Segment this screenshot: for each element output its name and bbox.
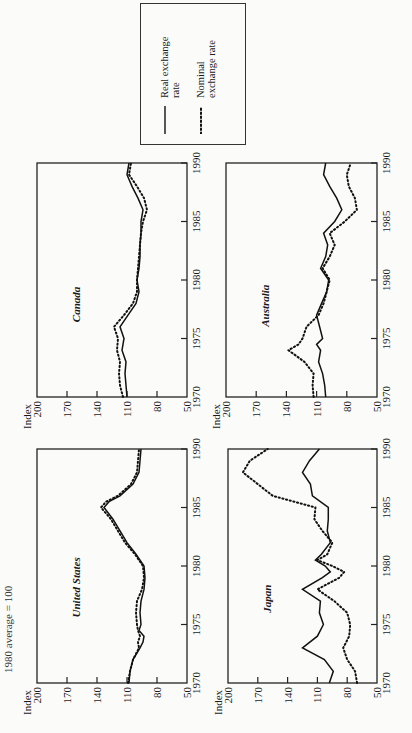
panel-canada: 2001701401108050Index1970197519801985199… (37, 163, 187, 397)
y-tick-label: 170 (251, 401, 262, 427)
x-tick-label: 1970 (381, 382, 392, 412)
y-axis-label: Index (21, 404, 33, 429)
nominal-exchange-rate-line (288, 163, 357, 397)
x-tick-label: 1980 (381, 551, 392, 581)
panel-united-states: 2001701401108050Index1970197519801985199… (37, 449, 187, 683)
x-tick-label: 1980 (191, 265, 202, 295)
x-tick-label: 1970 (381, 668, 392, 698)
x-tick-label: 1990 (381, 434, 392, 464)
x-tick-label: 1985 (191, 207, 202, 237)
panel-plot-area (226, 163, 377, 397)
nominal-exchange-rate-line (101, 449, 144, 683)
y-tick-label: 170 (62, 687, 73, 713)
x-tick-label: 1975 (381, 610, 392, 640)
x-tick-label: 1980 (381, 265, 392, 295)
x-tick-label: 1990 (191, 434, 202, 464)
rotated-figure-page: 1980 average = 100 2001701401108050Index… (0, 0, 412, 733)
y-axis-label: Index (21, 690, 33, 715)
y-axis-label: Index (212, 690, 224, 715)
panel-australia: 2001701401108050Index1970197519801985199… (226, 163, 377, 397)
panel-plot-area (37, 449, 187, 683)
y-tick-label: 110 (122, 687, 133, 713)
y-tick-label: 140 (281, 401, 292, 427)
nominal-exchange-rate-line (243, 449, 357, 683)
legend-item-nominal: Nominal exchange rate (195, 28, 217, 134)
y-tick-label: 80 (342, 401, 353, 427)
legend-item-real: Real exchange rate (159, 28, 181, 134)
nominal-exchange-rate-line (114, 163, 147, 397)
legend: Real exchange rate Nominal exchange rate (140, 3, 246, 145)
y-tick-label: 200 (223, 687, 234, 713)
x-tick-label: 1975 (191, 324, 202, 354)
x-tick-label: 1980 (191, 551, 202, 581)
panel-plot-area (37, 163, 187, 397)
y-tick-label: 140 (92, 687, 103, 713)
y-tick-label: 200 (221, 401, 232, 427)
legend-label-nominal: Nominal exchange rate (195, 28, 217, 98)
panel-title: United States (70, 557, 82, 617)
panel-title: Japan (261, 585, 273, 613)
x-tick-label: 1985 (381, 207, 392, 237)
real-exchange-rate-line (317, 163, 342, 397)
y-tick-label: 80 (152, 687, 163, 713)
x-tick-label: 1985 (381, 493, 392, 523)
x-tick-label: 1970 (191, 382, 202, 412)
x-tick-label: 1990 (381, 148, 392, 178)
legend-label-real: Real exchange rate (159, 28, 181, 98)
y-tick-label: 170 (62, 401, 73, 427)
x-tick-label: 1975 (381, 324, 392, 354)
y-tick-label: 170 (253, 687, 264, 713)
dotted-line-swatch-icon (195, 104, 207, 134)
panel-plot-area (228, 449, 377, 683)
x-tick-label: 1975 (191, 610, 202, 640)
y-tick-label: 110 (312, 687, 323, 713)
y-tick-label: 110 (122, 401, 133, 427)
real-exchange-rate-line (120, 163, 143, 397)
y-tick-label: 80 (152, 401, 163, 427)
panel-japan: 2001701401108050Index1970197519801985199… (228, 449, 377, 683)
solid-line-swatch-icon (159, 104, 171, 134)
panel-title: Canada (70, 287, 82, 322)
y-tick-label: 80 (342, 687, 353, 713)
y-axis-label: Index (210, 404, 222, 429)
x-tick-label: 1970 (191, 668, 202, 698)
y-tick-label: 200 (32, 401, 43, 427)
figure-caption-fragment: 1980 average = 100 (2, 586, 14, 673)
x-tick-label: 1985 (191, 493, 202, 523)
y-tick-label: 110 (312, 401, 323, 427)
y-tick-label: 140 (92, 401, 103, 427)
y-tick-label: 200 (32, 687, 43, 713)
x-tick-label: 1990 (191, 148, 202, 178)
panel-title: Australia (259, 285, 271, 327)
real-exchange-rate-line (303, 449, 334, 683)
y-tick-label: 140 (283, 687, 294, 713)
